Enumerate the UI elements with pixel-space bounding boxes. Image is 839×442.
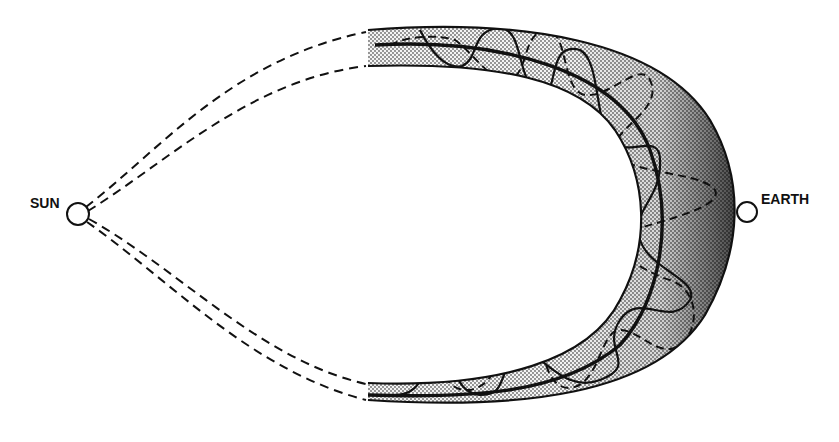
leg-bottom-outer [87,222,366,400]
earth-label: EARTH [761,191,809,207]
leg-top-outer [86,32,366,207]
sun-label: SUN [30,195,60,211]
leg-bottom-inner [89,219,366,384]
sun-earth-flux-rope-diagram: SUN EARTH [0,0,839,442]
sun: SUN [30,195,89,225]
sun-icon [67,203,89,225]
earth: EARTH [737,191,809,222]
leg-top-inner [88,66,366,211]
footpoint-legs [86,32,366,400]
earth-icon [737,202,757,222]
